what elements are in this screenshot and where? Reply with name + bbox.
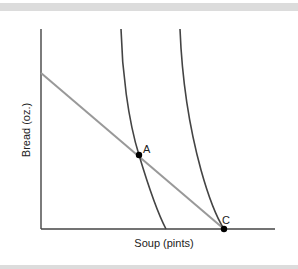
point-c-label: C (222, 214, 230, 226)
indifference-curve-2 (180, 29, 224, 229)
indifference-curve-diagram (0, 0, 298, 269)
point-a-marker (136, 152, 142, 158)
y-axis-label: Bread (oz.) (20, 103, 32, 157)
point-a-label: A (143, 143, 150, 155)
x-axis-label: Soup (pints) (134, 237, 193, 249)
point-c-marker (221, 226, 227, 232)
indifference-curve-1 (121, 29, 166, 229)
